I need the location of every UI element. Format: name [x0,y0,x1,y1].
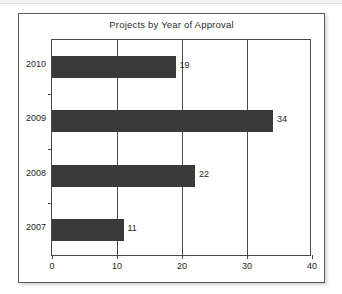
bar-row: 200711 [52,203,310,257]
plot-area: 010203040201019200934200822200711 [51,39,311,256]
x-tick-label: 0 [49,261,54,271]
y-tick-label: 2009 [26,113,46,123]
bar-value-label: 19 [176,60,190,70]
bar[interactable] [52,165,195,187]
y-tick-mark [48,203,52,204]
bar-value-label: 34 [273,114,287,124]
bar-row: 200822 [52,149,310,203]
x-tick-label: 20 [177,261,187,271]
y-tick-label: 2008 [26,168,46,178]
bar[interactable] [52,110,273,132]
y-tick-mark [48,94,52,95]
y-tick-label: 2010 [26,59,46,69]
x-tick-mark [312,255,313,259]
bar[interactable] [52,219,124,241]
x-tick-label: 30 [242,261,252,271]
bar-row: 201019 [52,40,310,94]
top-rule [0,0,342,4]
x-tick-label: 40 [307,261,317,271]
y-tick-label: 2007 [26,222,46,232]
y-tick-mark [48,149,52,150]
bar[interactable] [52,56,176,78]
chart-title: Projects by Year of Approval [19,19,324,30]
bar-row: 200934 [52,94,310,148]
bar-value-label: 11 [124,223,137,233]
bar-value-label: 22 [195,169,209,179]
chart-card: Projects by Year of Approval 01020304020… [18,13,325,283]
x-tick-label: 10 [112,261,122,271]
